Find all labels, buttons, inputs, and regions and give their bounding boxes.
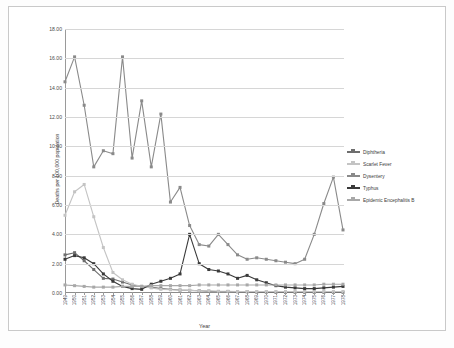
x-tick-label: 1949 <box>63 295 68 305</box>
data-point-marker <box>102 246 105 249</box>
data-point-marker <box>102 272 105 275</box>
data-point-marker <box>111 286 114 289</box>
data-point-marker <box>217 270 220 273</box>
data-point-marker <box>159 280 162 283</box>
x-tick-label: 1974 <box>302 295 307 305</box>
data-point-marker <box>207 283 210 286</box>
y-tick-label: 18.00 <box>49 26 62 32</box>
data-point-marker <box>274 259 277 262</box>
data-point-marker <box>322 283 325 286</box>
x-tick-label: 1962 <box>187 295 192 305</box>
data-point-marker <box>64 80 67 83</box>
legend-label: Scarlet Fever <box>363 162 392 167</box>
x-tick-label: 1950 <box>72 295 77 305</box>
data-point-marker <box>303 287 306 290</box>
data-point-marker <box>236 277 239 280</box>
series-typhus <box>64 233 345 291</box>
data-point-marker <box>159 284 162 287</box>
y-tick-label: 10.00 <box>49 143 62 149</box>
x-tick-label: 1976 <box>321 295 326 305</box>
data-point-marker <box>274 283 277 286</box>
data-point-marker <box>140 99 143 102</box>
chart-frame: Deaths per 100,000 population 0.002.004.… <box>8 6 446 331</box>
legend-swatch-icon <box>347 187 360 189</box>
data-point-marker <box>64 214 67 217</box>
series-scarlet-fever <box>64 183 345 293</box>
legend-item[interactable]: Epidemic Encephalitis B <box>347 194 453 206</box>
legend-item[interactable]: Typhus <box>347 182 453 194</box>
x-tick-label: 1960 <box>168 295 173 305</box>
data-point-marker <box>332 286 335 289</box>
x-tick-label: 1954 <box>111 295 116 305</box>
legend-swatch-icon <box>347 151 360 153</box>
data-point-marker <box>332 283 335 286</box>
legend-item[interactable]: Dysentery <box>347 170 453 182</box>
data-point-marker <box>140 288 143 291</box>
data-point-marker <box>159 288 162 291</box>
series-line <box>65 253 343 293</box>
data-point-marker <box>169 288 172 291</box>
data-point-marker <box>255 278 258 281</box>
y-axis-tick-labels: 0.002.004.006.008.0010.0012.0014.0016.00… <box>35 29 62 293</box>
legend-label: Typhus <box>363 186 378 191</box>
data-point-marker <box>83 183 86 186</box>
data-point-marker <box>284 283 287 286</box>
gridline <box>65 117 344 118</box>
y-tick-label: 2.00 <box>52 261 62 267</box>
legend-swatch-icon <box>347 199 360 201</box>
data-point-marker <box>169 284 172 287</box>
x-tick-label: 1964 <box>206 295 211 305</box>
legend-item[interactable]: Scarlet Fever <box>347 158 453 170</box>
legend-label: Diphtheria <box>363 150 385 155</box>
data-point-marker <box>294 286 297 289</box>
x-axis-title: Year <box>65 323 344 329</box>
data-point-marker <box>169 201 172 204</box>
data-point-marker <box>83 259 86 262</box>
x-tick-label: 1961 <box>178 295 183 305</box>
data-point-marker <box>102 149 105 152</box>
legend-item[interactable]: Diphtheria <box>347 146 453 158</box>
x-tick-label: 1951 <box>82 295 87 305</box>
data-point-marker <box>111 152 114 155</box>
series-line <box>65 284 343 287</box>
data-point-marker <box>92 268 95 271</box>
gridline <box>65 264 344 265</box>
x-tick-label: 1953 <box>101 295 106 305</box>
data-point-marker <box>313 283 316 286</box>
x-tick-label: 1971 <box>273 295 278 305</box>
x-tick-label: 1963 <box>197 295 202 305</box>
x-tick-label: 1956 <box>130 295 135 305</box>
y-tick-label: 12.00 <box>49 114 62 120</box>
data-point-marker <box>226 272 229 275</box>
series-line <box>65 184 343 291</box>
x-tick-label: 1959 <box>158 295 163 305</box>
x-tick-label: 1967 <box>235 295 240 305</box>
data-point-marker <box>73 190 76 193</box>
data-point-marker <box>294 283 297 286</box>
data-point-marker <box>121 285 124 288</box>
data-point-marker <box>198 243 201 246</box>
data-point-marker <box>236 283 239 286</box>
data-point-marker <box>303 258 306 261</box>
x-tick-label: 1970 <box>264 295 269 305</box>
series-layer <box>65 29 344 293</box>
legend-label: Epidemic Encephalitis B <box>363 198 414 203</box>
gridline <box>65 176 344 177</box>
data-point-marker <box>265 258 268 261</box>
x-tick-label: 1978 <box>341 295 346 305</box>
data-point-marker <box>131 157 134 160</box>
data-point-marker <box>179 284 182 287</box>
data-point-marker <box>179 272 182 275</box>
data-point-marker <box>83 104 86 107</box>
data-point-marker <box>92 165 95 168</box>
chart-legend: DiphtheriaScarlet FeverDysenteryTyphusEp… <box>347 146 453 206</box>
y-tick-label: 0.00 <box>52 290 62 296</box>
x-tick-label: 1968 <box>245 295 250 305</box>
x-tick-label: 1957 <box>139 295 144 305</box>
x-tick-label: 1975 <box>312 295 317 305</box>
gridline <box>65 29 344 30</box>
data-point-marker <box>342 228 345 231</box>
data-point-marker <box>169 277 172 280</box>
x-tick-label: 1952 <box>91 295 96 305</box>
x-tick-label: 1969 <box>254 295 259 305</box>
